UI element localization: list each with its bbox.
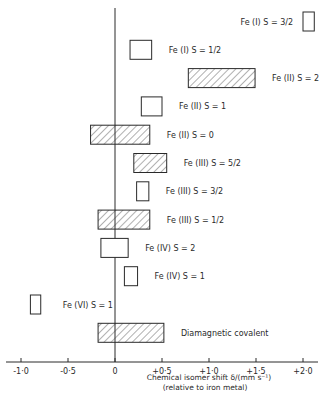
x-axis-title: Chemical isomer shift δ/(mm s⁻¹): [147, 373, 272, 382]
bar-fe-iii-s-5-2: [134, 154, 167, 173]
label-fe-i-s-1-2: Fe (I) S = 1/2: [169, 46, 222, 55]
bar-fe-i-s-3-2: [303, 12, 314, 31]
label-fe-ii-s-2: Fe (II) S = 2: [272, 74, 319, 83]
bar-fe-ii-s-0: [91, 125, 150, 144]
x-tick-label: -1·0: [13, 367, 29, 376]
label-fe-iii-s-5-2: Fe (III) S = 5/2: [184, 159, 241, 168]
x-tick-label: 0: [112, 367, 117, 376]
isomer-shift-chart: Fe (I) S = 3/2Fe (I) S = 1/2Fe (II) S = …: [0, 0, 325, 400]
label-fe-iv-s-1: Fe (IV) S = 1: [155, 272, 205, 281]
bar-fe-iii-s-1-2: [98, 210, 150, 229]
bars-group: [30, 12, 314, 342]
label-fe-iii-s-1-2: Fe (III) S = 1/2: [167, 216, 224, 225]
label-fe-vi-s-1: Fe (VI) S = 1: [63, 301, 113, 310]
label-fe-iv-s-2: Fe (IV) S = 2: [145, 244, 195, 253]
label-fe-iii-s-3-2: Fe (III) S = 3/2: [166, 187, 223, 196]
label-fe-ii-s-0: Fe (II) S = 0: [167, 131, 214, 140]
bar-fe-ii-s-2: [188, 69, 255, 88]
label-fe-ii-s-1: Fe (II) S = 1: [179, 102, 226, 111]
bar-fe-ii-s-1: [141, 97, 162, 116]
bar-fe-iv-s-1: [124, 267, 137, 286]
label-fe-i-s-3-2: Fe (I) S = 3/2: [240, 18, 293, 27]
bar-diamagnetic-covalent: [98, 323, 164, 342]
bar-fe-iii-s-3-2: [137, 182, 149, 201]
x-tick-label: +2·0: [293, 367, 312, 376]
bar-fe-vi-s-1: [30, 295, 40, 314]
bar-fe-iv-s-2: [101, 238, 128, 257]
label-diamagnetic-covalent: Diamagnetic covalent: [181, 329, 269, 338]
x-axis-subtitle: (relative to iron metal): [163, 383, 248, 392]
bar-labels-group: Fe (I) S = 3/2Fe (I) S = 1/2Fe (II) S = …: [63, 18, 319, 338]
bar-fe-i-s-1-2: [130, 40, 152, 59]
x-tick-label: -0·5: [60, 367, 76, 376]
